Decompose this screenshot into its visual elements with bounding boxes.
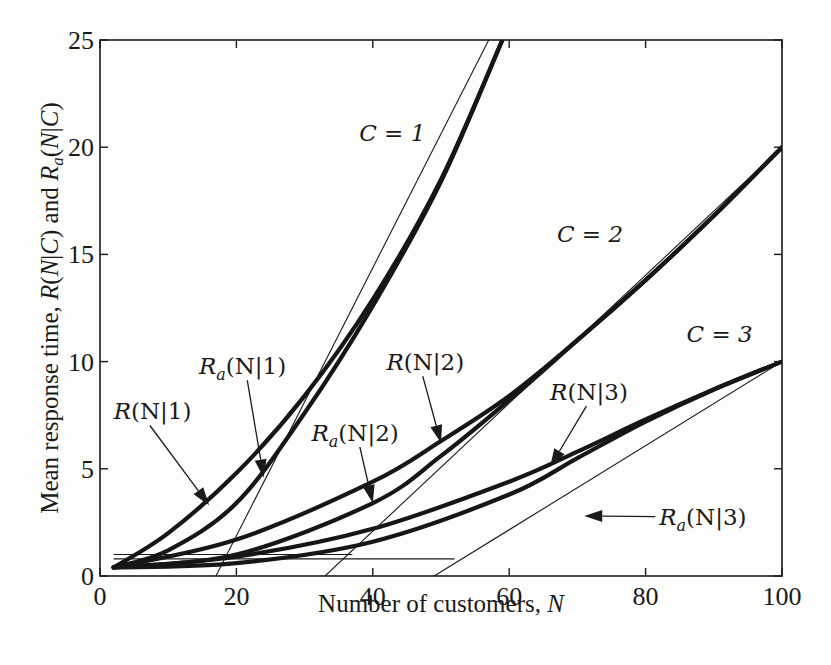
arrow-shaft: [360, 447, 369, 486]
x-tick-label: 100: [763, 582, 802, 611]
annotation-label: R(N|1): [113, 398, 192, 425]
y-tick-label: 5: [81, 455, 94, 484]
series-line: [114, 40, 503, 567]
series-line: [114, 40, 503, 567]
arrow-head-icon: [363, 484, 375, 503]
response-time-chart: 0204060801000510152025 C = 1C = 2C = 3R(…: [0, 0, 831, 665]
y-tick-label: 25: [68, 26, 94, 55]
annotation-label: C = 1: [359, 120, 425, 146]
annotation-label: C = 2: [557, 221, 623, 247]
arrow-head-icon: [584, 510, 602, 522]
series-line: [114, 362, 782, 568]
annotation-label: R(N|3): [549, 379, 628, 406]
annotation-label: Ra(N|2): [310, 420, 398, 451]
asymptote-line: [216, 40, 489, 576]
y-tick-label: 20: [68, 133, 94, 162]
arrow-head-icon: [430, 424, 442, 443]
annotation-label: Ra(N|3): [658, 504, 746, 535]
y-axis-title: Mean response time, R(N|C) and Ra(N|C): [36, 102, 67, 514]
y-tick-label: 10: [68, 348, 94, 377]
arrow-shaft: [423, 376, 437, 426]
arrow-head-icon: [194, 487, 210, 505]
arrow-shaft: [150, 425, 198, 490]
y-tick-label: 0: [81, 562, 94, 591]
inline-annotations: C = 1C = 2C = 3R(N|1)Ra(N|1)R(N|2)Ra(N|2…: [113, 120, 753, 535]
x-tick-label: 80: [633, 582, 659, 611]
arrow-shaft: [247, 380, 260, 459]
annotation-label: R(N|2): [385, 349, 464, 376]
series-line: [114, 362, 782, 568]
y-tick-label: 15: [68, 240, 94, 269]
arrow-shaft: [559, 406, 586, 451]
x-tick-label: 20: [223, 582, 249, 611]
annotation-label: Ra(N|1): [198, 353, 286, 384]
x-axis-title: Number of customers, N: [318, 590, 565, 617]
annotation-label: C = 3: [687, 321, 753, 347]
x-tick-label: 0: [94, 582, 107, 611]
series-curves: [114, 40, 782, 567]
